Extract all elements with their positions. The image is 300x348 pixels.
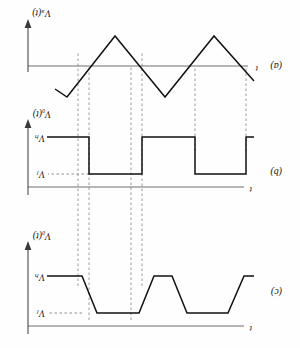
panel-c-label: (c) — [271, 287, 282, 298]
panel-c-axis-arrow-icon — [25, 241, 32, 250]
panel-b: (b) t Vₗ Vₕ V₀(t) — [0, 112, 300, 230]
panel-b-level-high-label: Vₗ — [37, 169, 45, 180]
panel-b-axis-arrow-icon — [25, 119, 32, 128]
panel-b-plot — [0, 112, 300, 230]
panel-c-time-axis-label: t — [249, 324, 252, 334]
panel-a-signal-label: Vₛ(t) — [32, 8, 51, 19]
panel-a-time-axis-label: t — [255, 64, 258, 74]
panel-c-plot — [0, 230, 300, 348]
figure-rotated-container: (c) t Vₗ Vₕ V₀(t) (b) t Vₗ Vₕ V₀(t) — [0, 0, 300, 348]
panel-b-waveform — [47, 137, 254, 174]
panel-b-level-low-label: Vₕ — [35, 133, 45, 144]
panel-c-signal-label: V₀(t) — [33, 231, 51, 241]
panel-c: (c) t Vₗ Vₕ V₀(t) — [0, 230, 300, 348]
panel-b-label: (b) — [270, 167, 282, 178]
panel-c-level-low-label: Vₕ — [35, 272, 45, 283]
panel-c-waveform — [47, 276, 254, 313]
panel-a: (a) t Vₛ(t) — [0, 0, 300, 112]
panel-a-axis-arrow-icon — [25, 19, 32, 28]
panel-a-label: (a) — [270, 61, 282, 72]
figure-waveform-comparison: (c) t Vₗ Vₕ V₀(t) (b) t Vₗ Vₕ V₀(t) — [0, 0, 300, 348]
panel-c-level-high-label: Vₗ — [37, 308, 45, 319]
panel-b-time-axis-label: t — [249, 185, 252, 195]
